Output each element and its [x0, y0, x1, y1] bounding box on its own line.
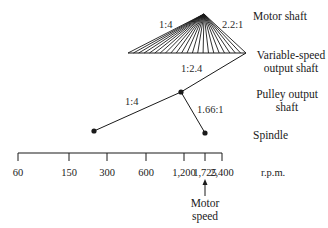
spindle-node-high	[202, 130, 207, 135]
motor-speed-arrow-icon	[203, 179, 208, 185]
axis-tick-label: 600	[138, 167, 154, 179]
axis-tick-label: 150	[61, 167, 77, 179]
label-variable-speed-line2: output shaft	[253, 62, 328, 75]
label-motor-speed-line2: speed	[185, 210, 225, 223]
axis-tick-label: 60	[13, 167, 24, 179]
speed-axis-ticks	[18, 153, 222, 161]
ratio-fan-left: 1:4	[159, 19, 172, 31]
ratio-pulley-right: 1.66:1	[197, 104, 224, 116]
fan-ray	[176, 14, 204, 53]
ratio-fan-right: 2.2:1	[222, 19, 243, 31]
label-spindle: Spindle	[253, 129, 288, 142]
spindle-node-low	[91, 128, 96, 133]
pulley-node	[178, 89, 183, 94]
ratio-variable-to-pulley: 1:2.4	[181, 63, 202, 75]
label-variable-speed-line1: Variable-speed	[253, 49, 328, 62]
axis-unit: r.p.m.	[261, 167, 285, 179]
label-motor-speed-line1: Motor	[185, 197, 225, 210]
ratio-pulley-left: 1:4	[125, 96, 138, 108]
label-motor-speed: Motor speed	[185, 197, 225, 223]
label-pulley-line2: shaft	[253, 101, 321, 114]
axis-tick-label: 300	[99, 167, 115, 179]
label-pulley-line1: Pulley output	[253, 88, 321, 101]
label-pulley-output-shaft: Pulley output shaft	[253, 88, 321, 114]
label-motor-shaft: Motor shaft	[253, 10, 307, 23]
label-variable-speed-output-shaft: Variable-speed output shaft	[253, 49, 328, 75]
speed-ray-diagram	[0, 0, 328, 228]
axis-tick-label: 2,400	[210, 167, 234, 179]
